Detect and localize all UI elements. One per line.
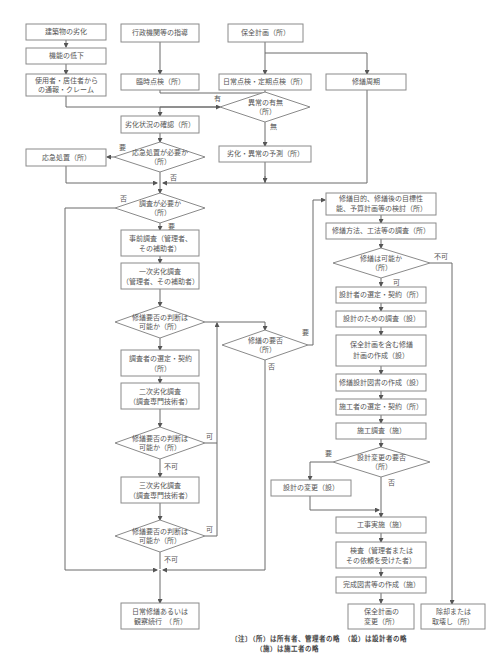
svg-text:取壊し（所）: 取壊し（所） xyxy=(432,617,474,626)
svg-text:日常点検・定期点検（所）: 日常点検・定期点検（所） xyxy=(223,77,307,86)
svg-text:修繕の要否: 修繕の要否 xyxy=(248,336,283,345)
label-yes: 有 xyxy=(214,94,221,103)
svg-text:修繕は可能か: 修繕は可能か xyxy=(360,254,402,263)
svg-text:二次劣化調査: 二次劣化調査 xyxy=(139,387,181,396)
svg-text:劣化・異常の予測（所）: 劣化・異常の予測（所） xyxy=(227,149,304,158)
box-tertiary-survey: 三次劣化調査 （調査専門技術者） xyxy=(121,477,199,503)
svg-text:調査者の選定・契約: 調査者の選定・契約 xyxy=(129,354,192,363)
svg-text:臨時点検（所）: 臨時点検（所） xyxy=(136,77,185,86)
svg-text:計画の作成（設）: 計画の作成（設） xyxy=(353,351,409,360)
note-line-2: （施）は施工者の略 xyxy=(256,644,319,653)
label-change-not: 否 xyxy=(388,479,395,487)
label-judge3-no: 不可 xyxy=(164,556,178,564)
svg-text:（所）: （所） xyxy=(371,462,392,471)
svg-text:その依頼を受けた者）: その依頼を受けた者） xyxy=(346,556,416,565)
box-demolition: 除却または 取壊し（所） xyxy=(421,604,485,629)
label-repair-need: 要 xyxy=(302,329,309,337)
label-repair-not: 否 xyxy=(268,363,275,371)
svg-text:（所）: （所） xyxy=(150,364,171,373)
box-inspection: 検査（管理者または その依頼を受けた者） xyxy=(336,542,426,568)
box-repair-purpose: 修繕目的、修繕後の目標性 能、予算計画等の検討（所） xyxy=(326,193,436,215)
decision-survey: 調査が必要か （所） xyxy=(115,193,205,223)
decision-judge2: 修繕要否の判断は 可能か（所） xyxy=(115,427,205,459)
svg-text:保全計画を含む修繕: 保全計画を含む修繕 xyxy=(350,340,413,349)
svg-text:観察続行 （所）: 観察続行 （所） xyxy=(134,617,187,626)
box-maintenance-plan: 保全計画（所） xyxy=(228,24,303,42)
box-deterioration: 建築物の劣化 xyxy=(26,24,106,40)
decision-repair-need: 修繕の要否 （所） xyxy=(222,330,308,360)
label-change-need: 要 xyxy=(325,450,332,458)
svg-text:その補助者）: その補助者） xyxy=(139,244,181,253)
decision-judge3: 修繕要否の判断は 可能か（所） xyxy=(115,520,205,552)
box-user-report: 使用者・居住者から の通報・クレーム xyxy=(26,74,106,96)
svg-text:保全計画（所）: 保全計画（所） xyxy=(241,28,290,37)
svg-text:行政機関等の指導: 行政機関等の指導 xyxy=(132,28,188,37)
box-confirm-condition: 劣化状況の確認（所） xyxy=(121,116,199,133)
svg-text:修繕周期: 修繕周期 xyxy=(352,77,380,86)
box-daily-repair: 日常修繕あるいは 観察続行 （所） xyxy=(121,603,199,629)
svg-text:施工調査（施）: 施工調査（施） xyxy=(357,426,406,435)
svg-text:使用者・居住者から: 使用者・居住者から xyxy=(35,76,98,85)
box-plan-create: 保全計画を含む修繕 計画の作成（設） xyxy=(336,335,426,366)
box-pre-survey: 事前調査（管理者、 その補助者） xyxy=(121,230,199,256)
label-feasible-no: 不可 xyxy=(434,253,448,261)
svg-text:設計の変更（設）: 設計の変更（設） xyxy=(283,483,339,492)
svg-text:修繕設計図書の作成（設）: 修繕設計図書の作成（設） xyxy=(339,378,423,387)
svg-text:変更（所）: 変更（所） xyxy=(364,617,399,626)
svg-text:修繕方法、工法等の調査（所）: 修繕方法、工法等の調査（所） xyxy=(332,226,430,235)
svg-text:保全計画の: 保全計画の xyxy=(364,607,399,616)
svg-text:修繕要否の判断は: 修繕要否の判断は xyxy=(132,434,188,443)
svg-text:（所）: （所） xyxy=(150,208,171,217)
box-routine-inspection: 日常点検・定期点検（所） xyxy=(219,74,311,90)
box-designer-select: 設計者の選定・契約（所） xyxy=(336,287,426,303)
label-judge2-yes: 可 xyxy=(206,433,213,441)
svg-text:三次劣化調査: 三次劣化調査 xyxy=(139,481,181,490)
svg-text:設計のための調査（設）: 設計のための調査（設） xyxy=(343,314,420,323)
svg-text:能、予算計画等の検討（所）: 能、予算計画等の検討（所） xyxy=(336,204,427,213)
svg-text:（所）: （所） xyxy=(371,263,392,272)
svg-text:日常修繕あるいは: 日常修繕あるいは xyxy=(132,607,188,616)
svg-text:の通報・クレーム: の通報・クレーム xyxy=(38,85,94,94)
box-construction: 工事実施（施） xyxy=(336,517,426,533)
svg-text:工事実施（施）: 工事実施（施） xyxy=(357,520,406,529)
svg-text:（調査専門技術者）: （調査専門技術者） xyxy=(129,397,192,406)
box-adhoc-inspection: 臨時点検（所） xyxy=(121,74,199,90)
svg-text:（所）: （所） xyxy=(150,157,171,166)
svg-text:機能の低下: 機能の低下 xyxy=(49,51,84,60)
label-emergency-need: 要 xyxy=(119,144,126,152)
svg-text:可能か（所）: 可能か（所） xyxy=(139,536,181,545)
label-judge3-yes: 可 xyxy=(206,526,213,534)
box-secondary-survey: 二次劣化調査 （調査専門技術者） xyxy=(121,383,199,409)
box-plan-update: 保全計画の 変更（所） xyxy=(348,604,414,629)
maintenance-flowchart: 建築物の劣化 機能の低下 使用者・居住者から の通報・クレーム 行政機関等の指導… xyxy=(0,0,504,659)
box-design-docs: 修繕設計図書の作成（設） xyxy=(336,374,426,391)
svg-text:（調査専門技術者）: （調査専門技術者） xyxy=(129,491,192,500)
box-primary-survey: 一次劣化調査 （管理者、その補助者） xyxy=(121,263,199,289)
svg-text:修繕要否の判断は: 修繕要否の判断は xyxy=(132,527,188,536)
label-no: 無 xyxy=(270,122,277,131)
svg-text:一次劣化調査: 一次劣化調査 xyxy=(139,267,181,276)
label-feasible-yes: 可 xyxy=(393,279,400,287)
svg-text:施工者の選定・契約（所）: 施工者の選定・契約（所） xyxy=(339,402,423,411)
decision-feasible: 修繕は可能か （所） xyxy=(333,248,430,278)
decision-emergency: 応急処置が必要か （所） xyxy=(114,142,205,172)
label-emergency-not: 否 xyxy=(170,174,177,182)
decision-design-change: 設計変更の要否 （所） xyxy=(333,447,430,477)
svg-text:検査（管理者または: 検査（管理者または xyxy=(350,546,413,555)
box-construction-survey: 施工調査（施） xyxy=(336,423,426,439)
svg-text:（管理者、その補助者）: （管理者、その補助者） xyxy=(122,277,199,286)
box-method-survey: 修繕方法、工法等の調査（所） xyxy=(326,223,436,239)
decision-judge1: 修繕要否の判断は 可能か（所） xyxy=(115,306,205,338)
box-emergency-action: 応急処置（所） xyxy=(26,149,106,166)
svg-text:修繕要否の判断は: 修繕要否の判断は xyxy=(132,313,188,322)
svg-text:除却または: 除却または xyxy=(436,607,471,616)
svg-text:応急処置（所）: 応急処置（所） xyxy=(42,153,91,162)
box-admin-guidance: 行政機関等の指導 xyxy=(121,24,199,42)
svg-text:完成図書等の作成（施）: 完成図書等の作成（施） xyxy=(343,580,420,589)
box-completion-docs: 完成図書等の作成（施） xyxy=(336,577,426,593)
decision-abnormality: 異常の有無 （所） xyxy=(220,92,310,122)
svg-text:（所）: （所） xyxy=(255,345,276,354)
label-survey-no: 否 xyxy=(120,195,127,203)
box-design-change: 設計の変更（設） xyxy=(271,480,351,496)
svg-text:可能か（所）: 可能か（所） xyxy=(139,443,181,452)
